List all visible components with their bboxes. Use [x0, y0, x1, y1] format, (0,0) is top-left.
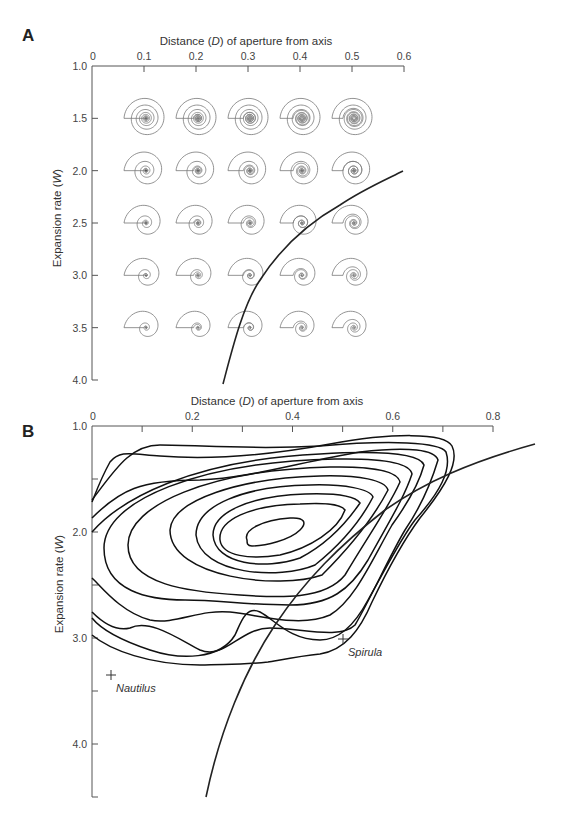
y-tick-label: 2.5	[72, 217, 87, 229]
x-tick-label: 0	[90, 50, 96, 62]
y-tick-label: 2.0	[72, 165, 87, 177]
panel-a-y-ticks: 1.01.52.02.53.03.54.0	[72, 60, 98, 386]
nautilus-plus-icon	[106, 670, 116, 680]
shell-icon	[124, 205, 160, 234]
shell-icon	[228, 205, 264, 234]
panel-b-y-axis	[92, 426, 98, 797]
shell-icon	[280, 258, 315, 285]
y-tick-label: 4.0	[72, 738, 87, 750]
shell-icon	[124, 98, 164, 134]
shell-icon	[280, 311, 314, 336]
nautilus-label: Nautilus	[116, 682, 156, 694]
shell-icon	[332, 98, 372, 134]
x-tick-label: 0.4	[293, 50, 308, 62]
panel-a-x-ticks: 00.10.20.30.40.50.6	[90, 50, 411, 72]
nautilus-marker: Nautilus	[106, 670, 156, 694]
shell-icon	[124, 152, 162, 184]
x-tick-label: 0.2	[185, 410, 200, 422]
contour-2	[220, 504, 345, 557]
x-tick-label: 0.6	[385, 410, 400, 422]
contour-1	[246, 518, 303, 546]
shell-grid	[124, 98, 372, 336]
shell-icon	[176, 311, 210, 336]
panel-b-y-ticks: 1.02.03.04.0	[72, 420, 98, 750]
contour-5	[170, 476, 388, 581]
spirula-plus-icon	[338, 634, 348, 644]
y-tick-label: 2.0	[72, 526, 87, 538]
y-tick-label: 3.5	[72, 322, 87, 334]
shell-icon	[228, 311, 262, 336]
y-tick-label: 3.0	[72, 269, 87, 281]
y-tick-label: 4.0	[72, 374, 87, 386]
panel-b-letter: B	[22, 422, 34, 441]
shell-icon	[176, 258, 211, 285]
x-tick-label: 0.3	[241, 50, 256, 62]
panel-b-y-axis-title: Expansion rate (W)	[53, 535, 65, 634]
contour-7	[104, 459, 412, 605]
shell-icon	[280, 152, 318, 184]
panel-b-boundary-curve	[206, 444, 535, 797]
shell-icon	[228, 258, 263, 285]
shell-icon	[176, 205, 212, 234]
x-tick-label: 0.4	[285, 410, 300, 422]
shell-icon	[124, 311, 158, 336]
x-tick-label: 0	[90, 410, 96, 422]
shell-icon	[176, 152, 214, 184]
shell-icon	[176, 98, 216, 134]
shell-icon	[332, 311, 366, 336]
panel-a-x-axis-title: Distance (D) of aperture from axis	[160, 35, 333, 47]
spirula-marker: Spirula	[338, 634, 382, 658]
figure: A Distance (D) of aperture from axis 00.…	[0, 0, 561, 824]
y-tick-label: 1.0	[72, 420, 87, 432]
shell-icon	[228, 98, 268, 134]
shell-icon	[280, 98, 320, 134]
x-tick-label: 0.6	[397, 50, 412, 62]
x-tick-label: 0.2	[189, 50, 204, 62]
contour-9	[92, 449, 438, 652]
panel-b: B Distance (D) of aperture from axis 00.…	[22, 395, 535, 797]
y-tick-label: 1.5	[72, 112, 87, 124]
panel-b-x-ticks: 00.20.40.60.8	[90, 410, 500, 432]
panel-a-y-axis-title: Expansion rate (W)	[51, 169, 63, 268]
x-tick-label: 0.5	[345, 50, 360, 62]
x-tick-label: 0.1	[137, 50, 152, 62]
panel-a-letter: A	[22, 26, 34, 45]
shell-icon	[332, 258, 367, 285]
shell-icon	[124, 258, 159, 285]
y-tick-label: 1.0	[72, 60, 87, 72]
shell-icon	[280, 205, 316, 234]
shell-icon	[332, 205, 368, 234]
y-tick-label: 3.0	[72, 632, 87, 644]
panel-a: A Distance (D) of aperture from axis 00.…	[22, 26, 411, 386]
shell-icon	[332, 152, 370, 184]
panel-a-boundary-curve	[223, 171, 403, 384]
panel-b-x-axis-title: Distance (D) of aperture from axis	[191, 395, 364, 407]
shell-icon	[228, 152, 266, 184]
density-contours	[92, 436, 454, 665]
x-tick-label: 0.8	[486, 410, 501, 422]
spirula-label: Spirula	[348, 646, 382, 658]
